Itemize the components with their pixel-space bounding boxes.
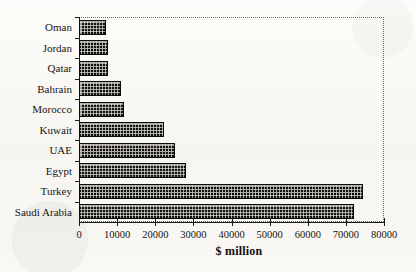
x-axis-tick-inner bbox=[79, 218, 80, 222]
x-axis-tick-inner bbox=[193, 218, 194, 222]
bar-row bbox=[79, 120, 164, 141]
x-axis-tick-inner bbox=[384, 218, 385, 222]
x-axis-title-text: $ million bbox=[216, 244, 263, 258]
y-axis-tick bbox=[75, 140, 80, 141]
category-label: Turkey bbox=[41, 181, 72, 202]
x-axis-tick bbox=[193, 222, 194, 226]
x-axis-tick-label: 40000 bbox=[218, 228, 244, 242]
bar-row bbox=[79, 99, 124, 120]
y-axis-tick bbox=[75, 79, 80, 80]
bar-row bbox=[79, 202, 354, 223]
x-axis-tick bbox=[117, 222, 118, 226]
x-axis-tick-label: 80000 bbox=[371, 228, 397, 242]
bar bbox=[79, 40, 108, 55]
bar bbox=[79, 20, 106, 35]
bar-row bbox=[79, 181, 363, 202]
y-axis-tick bbox=[75, 99, 80, 100]
category-label: Saudi Arabia bbox=[15, 202, 72, 223]
bar-row bbox=[79, 58, 108, 79]
category-label: Bahrain bbox=[37, 79, 72, 100]
x-axis-tick-label: 0 bbox=[76, 228, 81, 242]
bar-series bbox=[79, 17, 384, 222]
x-axis-tick bbox=[270, 222, 271, 226]
bar bbox=[79, 143, 175, 158]
bar bbox=[79, 81, 121, 96]
x-axis-tick-labels: 0100002000030000400005000060000700008000… bbox=[0, 228, 416, 244]
x-axis-tick-label: 70000 bbox=[333, 228, 359, 242]
bar bbox=[79, 122, 164, 137]
category-label: Jordan bbox=[43, 38, 72, 59]
bar-row bbox=[79, 79, 121, 100]
x-axis-tick bbox=[232, 222, 233, 226]
y-axis-tick bbox=[75, 38, 80, 39]
y-axis-tick bbox=[75, 120, 80, 121]
bar-row bbox=[79, 140, 175, 161]
y-axis-tick bbox=[75, 202, 80, 203]
y-axis-tick bbox=[75, 161, 80, 162]
x-axis-tick-inner bbox=[232, 218, 233, 222]
x-axis-tick-label: 20000 bbox=[142, 228, 168, 242]
x-axis-tick bbox=[155, 222, 156, 226]
x-axis-tick-label: 30000 bbox=[180, 228, 206, 242]
x-axis-tick bbox=[79, 222, 80, 226]
category-label: UAE bbox=[49, 140, 72, 161]
x-axis-tick-inner bbox=[155, 218, 156, 222]
bar bbox=[79, 102, 124, 117]
category-label: Egypt bbox=[46, 161, 72, 182]
x-axis-tick bbox=[308, 222, 309, 226]
category-label: Kuwait bbox=[40, 120, 72, 141]
x-axis-tick-label: 50000 bbox=[257, 228, 283, 242]
x-axis-ticks bbox=[79, 222, 385, 227]
bar-row bbox=[79, 38, 108, 59]
x-axis-tick-label: 10000 bbox=[104, 228, 130, 242]
y-axis-tick bbox=[75, 17, 80, 18]
y-axis-tick bbox=[75, 181, 80, 182]
bar bbox=[79, 163, 186, 178]
x-axis-tick-inner bbox=[308, 218, 309, 222]
x-axis-tick-inner bbox=[270, 218, 271, 222]
x-axis-tick-inner bbox=[346, 218, 347, 222]
bar bbox=[79, 204, 354, 219]
category-label: Oman bbox=[45, 17, 72, 38]
bar-row bbox=[79, 17, 106, 38]
bar bbox=[79, 61, 108, 76]
x-axis-tick-inner bbox=[117, 218, 118, 222]
category-label: Morocco bbox=[32, 99, 72, 120]
bar bbox=[79, 184, 363, 199]
x-axis-tick bbox=[384, 222, 385, 226]
x-axis-title: $ million bbox=[0, 244, 416, 259]
category-label: Qatar bbox=[48, 58, 72, 79]
bar-chart: OmanJordanQatarBahrainMoroccoKuwaitUAEEg… bbox=[0, 0, 416, 272]
y-axis-tick bbox=[75, 58, 80, 59]
x-axis-tick-label: 60000 bbox=[295, 228, 321, 242]
x-axis-tick bbox=[346, 222, 347, 226]
bar-row bbox=[79, 161, 186, 182]
category-axis-labels: OmanJordanQatarBahrainMoroccoKuwaitUAEEg… bbox=[0, 17, 76, 222]
